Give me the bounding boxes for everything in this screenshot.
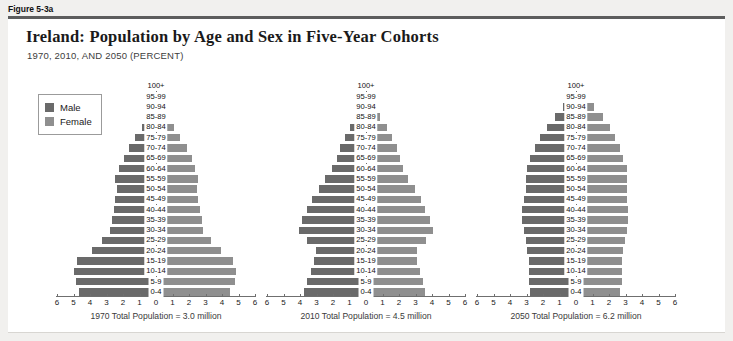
cohort-row: 15-19 xyxy=(476,256,676,267)
cohort-row: 90-94 xyxy=(56,102,256,113)
cohort-label: 80-84 xyxy=(354,122,377,132)
cohort-label: 65-69 xyxy=(564,153,587,163)
axis-tick-label: 5 xyxy=(491,298,495,307)
cohort-label: 40-44 xyxy=(354,205,377,215)
bar-female xyxy=(157,268,236,275)
axis-tick-mark xyxy=(222,294,223,297)
cohort-row: 75-79 xyxy=(56,132,256,143)
x-axis-ticks-2010: 6543210123456 xyxy=(266,297,466,309)
cohort-label: 15-19 xyxy=(564,256,587,266)
cohort-row: 60-64 xyxy=(56,163,256,174)
cohort-label: 0-4 xyxy=(359,287,374,297)
axis-tick-label: 2 xyxy=(607,298,611,307)
cohort-label: 90-94 xyxy=(564,102,587,112)
cohort-row: 85-89 xyxy=(56,112,256,123)
cohort-label: 30-34 xyxy=(564,225,587,235)
cohort-label: 60-64 xyxy=(564,164,587,174)
cohort-row: 10-14 xyxy=(56,266,256,277)
axis-tick-label: 6 xyxy=(265,298,269,307)
cohort-row: 5-9 xyxy=(56,276,256,287)
axis-tick-label: 2 xyxy=(541,298,545,307)
plot-area-2050: 100+95-9990-9485-8980-8475-7970-7465-696… xyxy=(476,81,676,297)
axis-tick-mark xyxy=(560,294,561,297)
cohort-row: 35-39 xyxy=(266,215,466,226)
axis-tick-label: 6 xyxy=(253,298,257,307)
axis-tick-mark xyxy=(123,294,124,297)
axis-tick-mark xyxy=(333,294,334,297)
cohort-row: 85-89 xyxy=(476,112,676,123)
cohort-label: 75-79 xyxy=(354,133,377,143)
cohort-label: 100+ xyxy=(145,81,166,91)
cohort-row: 30-34 xyxy=(266,225,466,236)
cohort-label: 60-64 xyxy=(354,164,377,174)
axis-tick-label: 5 xyxy=(656,298,660,307)
axis-tick-label: 4 xyxy=(640,298,644,307)
bar-male xyxy=(304,288,365,295)
cohort-row: 50-54 xyxy=(266,184,466,195)
cohort-label: 75-79 xyxy=(144,133,167,143)
axis-tick-mark xyxy=(57,294,58,297)
cohort-row: 20-24 xyxy=(476,245,676,256)
axis-tick-label: 2 xyxy=(331,298,335,307)
axis-tick-label: 1 xyxy=(590,298,594,307)
axis-tick-mark xyxy=(659,294,660,297)
cohort-label: 70-74 xyxy=(354,143,377,153)
cohort-row: 100+ xyxy=(266,81,466,92)
axis-tick-label: 1 xyxy=(170,298,174,307)
plot-area-1970: 100+95-9990-9485-8980-8475-7970-7465-696… xyxy=(56,81,256,297)
cohort-row: 80-84 xyxy=(56,122,256,133)
axis-tick-mark xyxy=(510,294,511,297)
axis-tick-label: 4 xyxy=(430,298,434,307)
axis-tick-mark xyxy=(74,294,75,297)
plot-area-2010: 100+95-9990-9485-8980-8475-7970-7465-696… xyxy=(266,81,466,297)
panel-caption-2050: 2050 Total Population = 6.2 million xyxy=(476,311,676,321)
chart-subtitle: 1970, 2010, AND 2050 (PERCENT) xyxy=(27,50,184,61)
cohort-row: 95-99 xyxy=(56,91,256,102)
cohort-row: 10-14 xyxy=(476,266,676,277)
cohort-label: 25-29 xyxy=(354,235,377,245)
bar-male xyxy=(74,268,155,275)
axis-tick-label: 3 xyxy=(524,298,528,307)
cohort-label: 65-69 xyxy=(144,153,167,163)
axis-tick-label: 5 xyxy=(281,298,285,307)
cohort-label: 80-84 xyxy=(564,122,587,132)
cohort-row: 70-74 xyxy=(266,143,466,154)
axis-tick-mark xyxy=(90,294,91,297)
cohort-row: 0-4 xyxy=(476,287,676,298)
cohort-row: 5-9 xyxy=(476,276,676,287)
figure-container: Figure 5-3a Ireland: Population by Age a… xyxy=(0,0,733,341)
cohort-label: 20-24 xyxy=(144,246,167,256)
cohort-row: 95-99 xyxy=(266,91,466,102)
cohort-row: 25-29 xyxy=(266,235,466,246)
panel-caption-1970: 1970 Total Population = 3.0 million xyxy=(56,311,256,321)
cohort-row: 20-24 xyxy=(266,245,466,256)
axis-tick-mark xyxy=(140,294,141,297)
axis-tick-label: 5 xyxy=(236,298,240,307)
axis-tick-mark xyxy=(284,294,285,297)
axis-tick-mark xyxy=(626,294,627,297)
axis-tick-mark xyxy=(107,294,108,297)
axis-tick-mark xyxy=(432,294,433,297)
cohort-row: 15-19 xyxy=(266,256,466,267)
cohort-label: 25-29 xyxy=(564,235,587,245)
cohort-row: 70-74 xyxy=(56,143,256,154)
cohort-row: 80-84 xyxy=(476,122,676,133)
cohort-row: 80-84 xyxy=(266,122,466,133)
axis-tick-label: 4 xyxy=(298,298,302,307)
cohort-label: 35-39 xyxy=(354,215,377,225)
cohort-row: 0-4 xyxy=(56,287,256,298)
cohort-label: 95-99 xyxy=(564,92,587,102)
cohort-row: 40-44 xyxy=(56,204,256,215)
cohort-row: 40-44 xyxy=(476,204,676,215)
cohort-label: 5-9 xyxy=(149,277,164,287)
cohort-row: 70-74 xyxy=(476,143,676,154)
axis-tick-mark xyxy=(189,294,190,297)
axis-tick-mark xyxy=(494,294,495,297)
cohort-label: 95-99 xyxy=(144,92,167,102)
axis-tick-label: 0 xyxy=(574,298,578,307)
chart-panel: Ireland: Population by Age and Sex in Fi… xyxy=(8,19,725,333)
axis-tick-label: 6 xyxy=(475,298,479,307)
pyramid-2010: 100+95-9990-9485-8980-8475-7970-7465-696… xyxy=(266,81,466,321)
axis-tick-label: 3 xyxy=(413,298,417,307)
axis-tick-mark xyxy=(609,294,610,297)
